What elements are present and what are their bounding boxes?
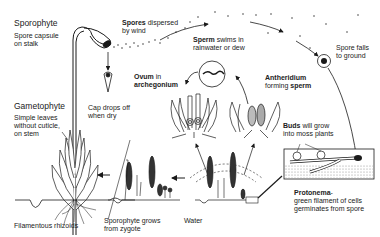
label-ovum: Ovum in (134, 73, 161, 81)
label-buds: Buds will grow (283, 122, 329, 130)
label-water: Water (184, 217, 202, 225)
label-simple-leaves-1: Simple leaves (14, 114, 58, 122)
label-spores-rest: dispersed (146, 19, 178, 26)
label-sperm-word: sperm (290, 82, 311, 89)
label-protonema-1: green filament of cells (294, 197, 362, 205)
label-ovum-rest: in (154, 73, 161, 80)
label-ovum-bold: Ovum (134, 73, 154, 80)
antheridium-illustration (230, 102, 280, 138)
label-cap-drops-2: when dry (88, 112, 116, 120)
label-protonema-rest: - (331, 189, 333, 196)
label-sperm-bold: Sperm (193, 36, 215, 43)
label-rainwater: rainwater or dew (193, 44, 245, 52)
label-into-moss: into moss plants (283, 130, 334, 138)
archegonium-illustration (171, 94, 217, 138)
label-spore-falls-2: to ground (336, 52, 366, 60)
label-spore-capsule-2: on stalk (14, 40, 38, 48)
falling-cap (104, 72, 112, 92)
young-sporophytes (125, 156, 172, 200)
label-sperm-rest: swims in (215, 36, 244, 43)
label-spore-capsule-1: Spore capsule (14, 32, 59, 40)
falling-spore (318, 55, 331, 68)
label-protonema: Protonema- (294, 189, 333, 197)
label-simple-leaves-2: without cuticle, (14, 122, 60, 130)
label-forming: forming (265, 82, 290, 89)
label-archegonium: archegonium (134, 81, 178, 89)
label-sporophyte-grows-2: from zygote (104, 225, 141, 233)
label-buds-bold: Buds (283, 122, 301, 129)
label-spores-bold: Spores (122, 19, 146, 26)
label-sporophyte: Sporophyte (14, 18, 57, 28)
water-gametophytes (207, 152, 245, 199)
gametophyte-plant (52, 130, 98, 210)
label-by-wind: by wind (122, 27, 146, 35)
label-spores-dispersed: Spores dispersed (122, 19, 178, 27)
label-gametophyte: Gametophyte (14, 101, 65, 111)
protonema-panel (284, 144, 374, 179)
label-rhizoids: Filamentous rhizoids (14, 222, 78, 230)
label-cap-drops-1: Cap drops off (88, 104, 130, 112)
label-simple-leaves-3: on stem (14, 130, 39, 138)
label-antheridium: Antheridium (265, 74, 306, 82)
label-spore-falls-1: Spore falls (336, 44, 369, 52)
label-sperm-swims: Sperm swims in (193, 36, 244, 44)
label-protonema-bold: Protonema (294, 189, 331, 196)
moss-life-cycle-diagram: Sporophyte Spore capsule on stalk Spores… (0, 0, 380, 237)
label-forming-sperm: forming sperm (265, 82, 311, 90)
label-protonema-2: germinates from spore (294, 205, 364, 213)
label-buds-rest: will grow (301, 122, 330, 129)
sperm-closeup (199, 61, 225, 87)
label-sporophyte-grows-1: Sporophyte grows (104, 217, 160, 225)
